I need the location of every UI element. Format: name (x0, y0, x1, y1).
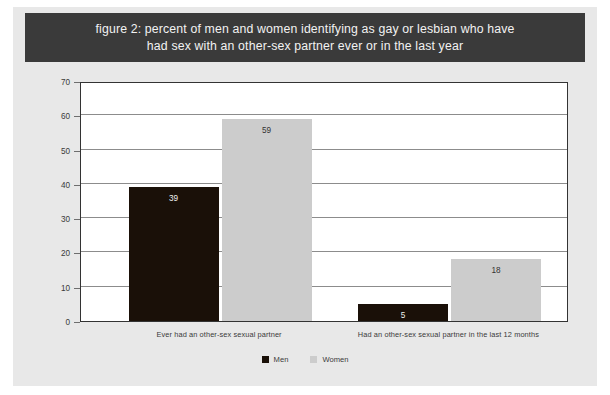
legend-item-men[interactable]: Men (262, 355, 289, 364)
plot-area: 3959518 (80, 82, 568, 322)
legend-item-women[interactable]: Women (310, 355, 348, 364)
bar-value-label: 39 (129, 194, 219, 203)
y-axis-tick-mark (74, 219, 80, 220)
chart-legend: MenWomen (0, 355, 610, 364)
gridline (81, 149, 567, 150)
legend-swatch-men-icon (262, 356, 269, 363)
gridline (81, 183, 567, 184)
bar-value-label: 5 (358, 311, 448, 320)
figure-title-line-2: had sex with an other-sex partner ever o… (147, 39, 463, 53)
y-axis-tick-label: 40 (44, 180, 70, 189)
y-axis-tick-mark (74, 185, 80, 186)
y-axis-tick-label: 10 (44, 283, 70, 292)
legend-swatch-women-icon (310, 356, 317, 363)
figure-container: figure 2: percent of men and women ident… (0, 0, 610, 395)
y-axis-tick-mark (74, 288, 80, 289)
y-axis-tick-mark (74, 322, 80, 323)
bar-value-label: 59 (222, 126, 312, 135)
figure-title-line-1: figure 2: percent of men and women ident… (95, 22, 514, 36)
figure-title: figure 2: percent of men and women ident… (83, 21, 526, 54)
bar-women-group-2: 18 (451, 259, 541, 321)
legend-label: Women (322, 355, 348, 364)
y-axis-tick-mark (74, 151, 80, 152)
y-axis-tick-label: 70 (44, 78, 70, 87)
y-axis-tick-label: 0 (44, 318, 70, 327)
gridline (81, 114, 567, 115)
bar-men-group-1: 39 (129, 187, 219, 321)
bar-men-group-2: 5 (358, 304, 448, 321)
figure-title-band: figure 2: percent of men and women ident… (25, 13, 585, 62)
bar-women-group-1: 59 (222, 119, 312, 321)
y-axis-tick-label: 20 (44, 249, 70, 258)
y-axis-tick-label: 50 (44, 146, 70, 155)
category-label-2: Had an other-sex sexual partner in the l… (298, 330, 598, 339)
legend-label: Men (274, 355, 289, 364)
y-axis-tick-label: 30 (44, 215, 70, 224)
bar-value-label: 18 (451, 266, 541, 275)
y-axis-tick-mark (74, 116, 80, 117)
y-axis-tick-mark (74, 82, 80, 83)
y-axis-tick-label: 60 (44, 112, 70, 121)
y-axis-tick-mark (74, 253, 80, 254)
